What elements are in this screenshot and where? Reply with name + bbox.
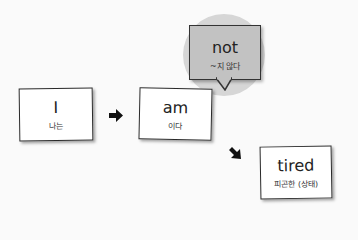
word-card-complement: tired 피곤한 (상태) [260,145,333,199]
word-verb: am [140,97,211,117]
callout-not: not ~지 않다 [189,25,261,80]
word-complement: tired [261,155,331,175]
callout-tail [216,77,232,91]
meaning-subject: 나는 [20,119,92,131]
meaning-verb: 이다 [140,119,211,131]
word-card-verb: am 이다 [138,87,212,141]
meaning-complement: 피곤한 (상태) [261,177,331,189]
word-not: not [190,38,260,57]
word-subject: I [20,97,92,117]
arrow-right-icon [109,109,124,122]
arrow-down-right-icon [229,147,242,160]
meaning-not: ~지 않다 [190,60,260,71]
word-card-subject: I 나는 [19,87,94,141]
